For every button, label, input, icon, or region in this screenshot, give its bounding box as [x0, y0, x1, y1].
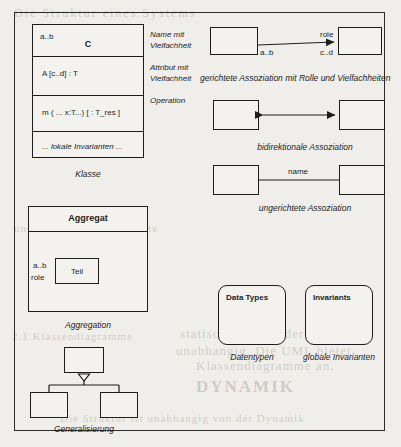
assoc1-target-box	[338, 27, 382, 55]
class-name-label: C	[33, 39, 143, 49]
caption-bidirektionale-assoziation: bidirektionale Assoziation	[220, 142, 390, 152]
generalisation-child-box-2	[100, 392, 138, 418]
assoc1-role-label: role	[320, 30, 333, 39]
data-types-title: Data Types	[226, 293, 268, 302]
class-operation-label: m ( ... x:T...) [ : T_res ]	[42, 108, 120, 117]
assoc1-target-multiplicity: c..d	[320, 48, 333, 57]
class-invariants-label: ... lokale Invarianten ...	[42, 142, 123, 151]
annotation-name-multiplicity: Name mit Vielfachheit	[150, 29, 191, 51]
aggregate-role-label: role	[31, 273, 44, 282]
caption-gerichtete-assoziation: gerichtete Assoziation mit Rolle und Vie…	[200, 73, 390, 83]
assoc2-right-box	[339, 100, 385, 130]
aggregate-divider	[29, 231, 147, 232]
assoc3-left-box	[213, 165, 259, 195]
annotation-name-line2: Vielfachheit	[150, 41, 191, 50]
aggregate-multiplicity-label: a..b	[33, 261, 46, 270]
annotation-attribute-multiplicity: Attribut mit Vielfachheit	[150, 62, 191, 84]
data-types-box: Data Types	[218, 285, 286, 345]
generalisation-child-box-1	[30, 392, 68, 418]
class-compartment-divider-2	[33, 95, 143, 96]
annotation-attr-line1: Attribut mit	[150, 63, 188, 72]
assoc1-source-box	[210, 27, 258, 55]
generalisation-parent-box	[64, 347, 104, 373]
class-compartment-divider-3	[33, 131, 143, 132]
caption-datentypen: Datentypen	[218, 352, 286, 362]
caption-generalisierung: Generalisierung	[34, 424, 134, 434]
aggregate-title-label: Aggregat	[29, 213, 147, 223]
caption-klasse: Klasse	[32, 169, 144, 179]
annotation-name-line1: Name mit	[150, 30, 184, 39]
part-label: Teil	[56, 267, 98, 276]
caption-ungerichtete-assoziation: ungerichtete Assoziation	[220, 203, 390, 213]
caption-aggregation: Aggregation	[28, 320, 148, 330]
aggregate-box: Aggregat a..b role Teil	[28, 206, 148, 312]
assoc1-source-multiplicity: a..b	[260, 48, 273, 57]
annotation-operation: Operation	[150, 95, 185, 106]
invariants-title: Invariants	[313, 293, 351, 302]
class-attribute-label: A [c..d] : T	[42, 69, 78, 78]
class-compartment-divider-1	[33, 56, 143, 57]
invariants-box: Invariants	[305, 285, 373, 345]
annotation-attr-line2: Vielfachheit	[150, 74, 191, 83]
caption-globale-invarianten: globale Invarianten	[288, 352, 390, 362]
assoc3-right-box	[339, 165, 385, 195]
class-box: a..b C A [c..d] : T m ( ... x:T...) [ : …	[32, 24, 144, 158]
assoc2-left-box	[213, 100, 259, 130]
part-box: Teil	[55, 258, 99, 284]
assoc3-name-label: name	[288, 167, 308, 176]
